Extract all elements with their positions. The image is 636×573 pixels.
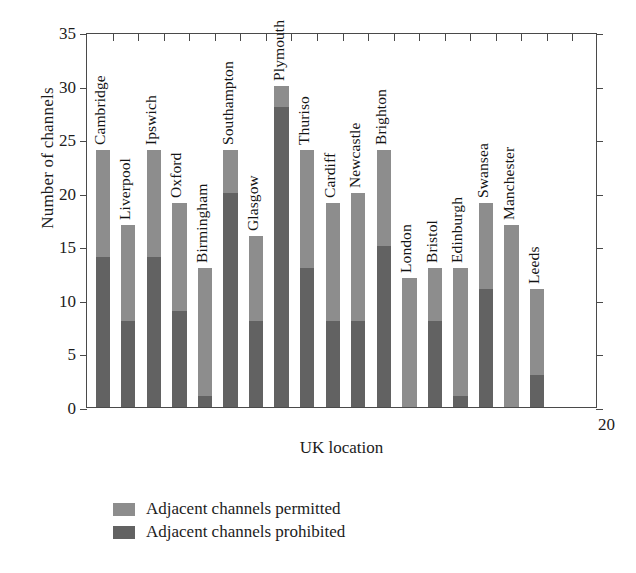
y-tick-label: 0 [68,399,77,419]
y-tick-mark-right [596,248,603,249]
bar: Cambridge [96,150,110,407]
bar-category-label: Ipswich [142,95,160,145]
y-tick-mark [80,302,87,303]
bar-category-label: Bristol [423,220,441,263]
legend-label: Adjacent channels prohibited [146,522,345,542]
bar-segment-prohibited [147,257,161,407]
bar-segment-permitted [504,225,518,407]
bar-segment-permitted [223,150,237,193]
bar-category-label: Swansea [474,144,492,199]
bar: London [402,278,416,407]
bar-segment-permitted [121,225,135,321]
y-tick-mark [80,409,87,410]
bar: Brighton [377,150,391,407]
bar-segment-permitted [530,289,544,375]
y-tick-mark [80,141,87,142]
y-tick-label: 35 [59,24,76,44]
bar-segment-prohibited [172,311,186,407]
bar-segment-permitted [300,150,314,268]
y-tick-mark-right [596,195,603,196]
bar-category-label: Southampton [219,61,237,145]
bar-segment-prohibited [530,375,544,407]
bar-segment-permitted [274,86,288,107]
bar-segment-prohibited [249,321,263,407]
bar-segment-prohibited [326,321,340,407]
y-tick-mark [80,88,87,89]
bar: Manchester [504,225,518,407]
y-axis-title: Number of channels [38,48,58,268]
bar: Bristol [428,268,442,407]
bar: Newcastle [351,193,365,407]
bar-segment-prohibited [428,321,442,407]
bar-segment-permitted [96,150,110,257]
bar: Liverpool [121,225,135,407]
bar: Cardiff [326,203,340,407]
y-tick-label: 10 [59,292,76,312]
y-tick-label: 15 [59,238,76,258]
bar-segment-prohibited [351,321,365,407]
bar-segment-permitted [479,203,493,289]
bar-category-label: Brighton [372,89,390,145]
bar-segment-prohibited [300,268,314,407]
bar: Oxford [172,203,186,407]
bar-segment-prohibited [198,396,212,407]
bar-segment-permitted [249,236,263,322]
bar-segment-prohibited [377,246,391,407]
bar-category-label: Glasgow [244,175,262,231]
legend-item: Adjacent channels prohibited [113,522,345,542]
bar-series-group: CambridgeLiverpoolIpswichOxfordBirmingha… [87,34,596,407]
y-tick-mark [80,248,87,249]
bar-category-label: London [397,225,415,274]
chart-figure: Number of channels 05101520253035 Cambri… [0,0,636,573]
y-tick-label: 20 [59,185,76,205]
bar-segment-permitted [147,150,161,257]
chart-legend: Adjacent channels permittedAdjacent chan… [113,499,345,542]
bar-category-label: Manchester [500,147,518,220]
plot-area: 05101520253035 CambridgeLiverpoolIpswich… [86,33,597,408]
bar-category-label: Newcastle [346,122,364,187]
legend-swatch [113,503,135,516]
bar-segment-permitted [453,268,467,397]
y-tick-mark-right [596,355,603,356]
bar-segment-permitted [172,203,186,310]
bar-segment-prohibited [121,321,135,407]
bar-category-label: Cardiff [321,153,339,198]
bar: Southampton [223,150,237,407]
legend-item: Adjacent channels permitted [113,499,345,519]
bar-category-label: Plymouth [270,19,288,80]
y-tick-label: 30 [59,78,76,98]
y-tick-mark [80,355,87,356]
bar-category-label: Leeds [525,247,543,285]
bar-segment-permitted [402,278,416,407]
bar-segment-permitted [326,203,340,321]
bar-category-label: Birmingham [193,183,211,262]
bar: Ipswich [147,150,161,407]
y-tick-label: 5 [68,345,77,365]
y-tick-label: 25 [59,131,76,151]
bar-segment-prohibited [274,107,288,407]
bar-category-label: Oxford [167,153,185,198]
bar: Edinburgh [453,268,467,407]
corner-annotation: 20 [598,415,615,435]
bar: Glasgow [249,236,263,407]
y-tick-mark [80,34,87,35]
y-tick-mark-right [596,409,603,410]
y-tick-mark-right [596,141,603,142]
y-tick-mark-right [596,34,603,35]
bar-category-label: Thuriso [295,96,313,145]
bar-category-label: Cambridge [91,75,109,145]
bar-segment-prohibited [479,289,493,407]
y-tick-mark [80,195,87,196]
legend-label: Adjacent channels permitted [146,499,340,519]
bar-segment-prohibited [96,257,110,407]
bar-segment-permitted [377,150,391,246]
y-tick-mark-right [596,88,603,89]
bar: Thuriso [300,150,314,407]
bar: Birmingham [198,268,212,407]
bar-segment-permitted [351,193,365,322]
y-tick-mark-right [596,302,603,303]
bar-category-label: Liverpool [116,158,134,220]
bar-segment-prohibited [453,396,467,407]
bar: Leeds [530,289,544,407]
x-axis-title: UK location [86,438,597,458]
